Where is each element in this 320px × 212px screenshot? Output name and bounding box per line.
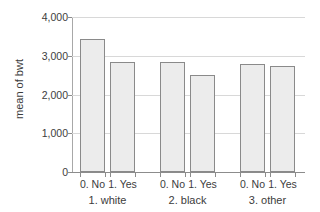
x-axis-tick-mark: [135, 173, 136, 177]
x-axis-tick-mark: [265, 173, 266, 177]
bar: [160, 62, 185, 172]
y-axis-tick-label: 1,000: [24, 128, 68, 138]
bar: [110, 62, 135, 172]
y-axis-tick-label: 0: [24, 167, 68, 177]
x-axis-tick-mark: [295, 173, 296, 177]
bar: [270, 66, 295, 172]
y-axis-tick-label: 2,000: [24, 90, 68, 100]
x-axis-tick-mark: [215, 173, 216, 177]
x-axis-bar-label: 1. Yes: [104, 178, 141, 190]
x-axis-tick-mark: [240, 173, 241, 177]
bar: [80, 39, 105, 172]
gridline: [72, 17, 305, 18]
x-axis-tick-mark: [190, 173, 191, 177]
x-axis-bar-label: 1. Yes: [184, 178, 221, 190]
x-axis-tick-mark: [110, 173, 111, 177]
bar: [240, 64, 265, 172]
y-axis-tick-label: 4,000: [24, 12, 68, 22]
x-axis-group-label: 3. other: [220, 194, 315, 206]
x-axis-tick-mark: [185, 173, 186, 177]
plot-area: [72, 17, 305, 172]
x-axis-bar-label: 1. Yes: [264, 178, 301, 190]
x-axis-tick-mark: [160, 173, 161, 177]
x-axis-tick-mark: [270, 173, 271, 177]
gridline: [72, 56, 305, 57]
x-axis-tick-mark: [80, 173, 81, 177]
bar: [190, 75, 215, 172]
y-axis-tick-label: 3,000: [24, 51, 68, 61]
x-axis-tick-mark: [105, 173, 106, 177]
y-axis-tick-mark: [67, 172, 72, 173]
bar-chart: mean of bwt 01,0002,0003,0004,000 0. No1…: [0, 0, 320, 212]
